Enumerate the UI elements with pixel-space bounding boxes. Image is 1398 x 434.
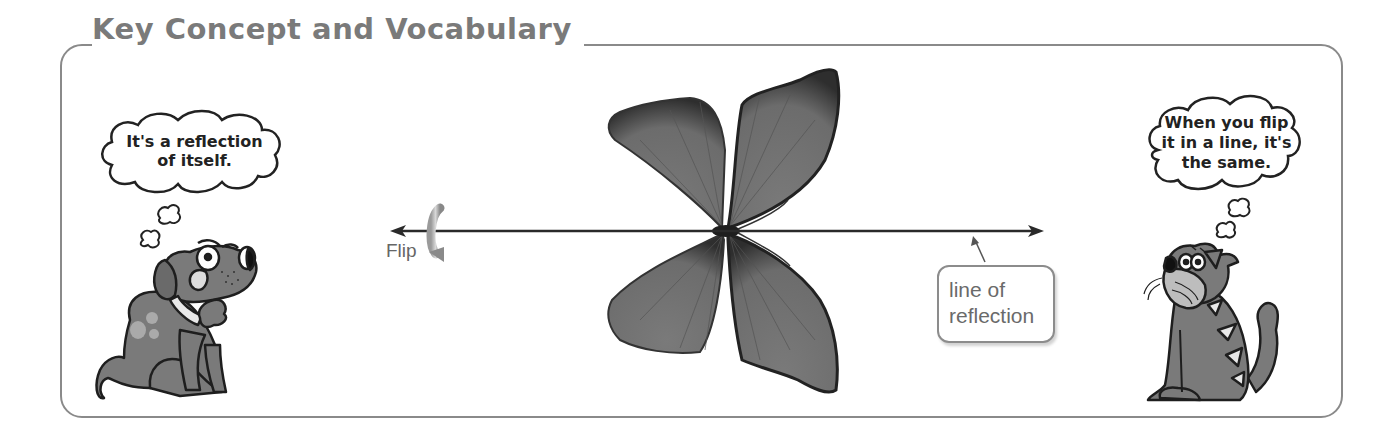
flip-label: Flip <box>386 240 417 262</box>
callout-line-2: reflection <box>949 303 1053 329</box>
cat-thought-line-1: When you flip <box>1154 113 1299 133</box>
dog-character <box>97 240 257 398</box>
cat-thought-line-3: the same. <box>1154 153 1299 173</box>
callout-line-1: line of <box>949 277 1053 303</box>
cat-thought-line-2: it in a line, it's <box>1154 133 1299 153</box>
cat-character <box>1144 244 1278 400</box>
cat-thought-text: When you flip it in a line, it's the sam… <box>1154 113 1299 173</box>
dog-thought-text: It's a reflection of itself. <box>112 132 277 170</box>
flip-rotate-icon <box>429 208 444 262</box>
dog-thought-line-2: of itself. <box>112 151 277 170</box>
line-of-reflection-callout: line of reflection <box>937 265 1055 343</box>
dog-thought-line-1: It's a reflection <box>112 132 277 151</box>
callout-pointer <box>971 236 985 262</box>
illustration <box>0 0 1398 434</box>
